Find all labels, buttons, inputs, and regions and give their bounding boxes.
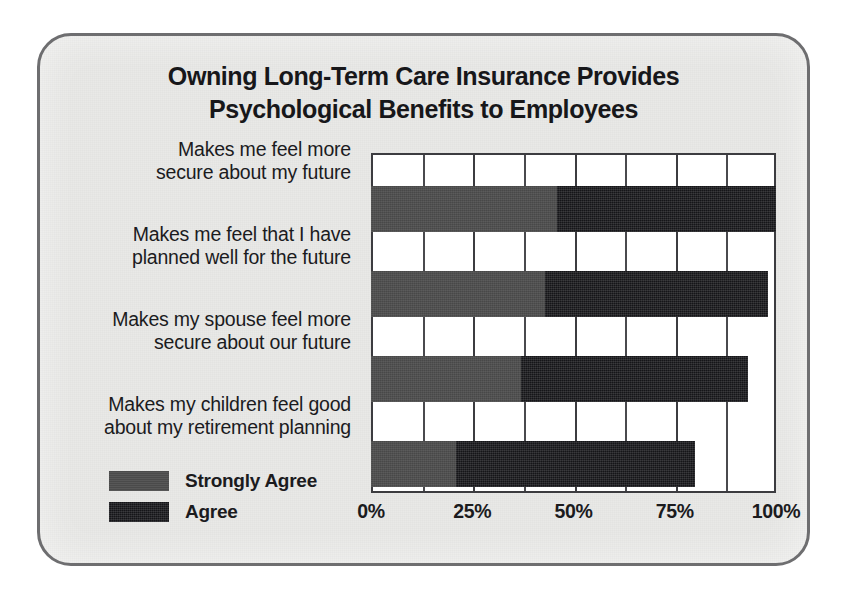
category-label-line-1: Makes me feel more — [51, 138, 351, 161]
bar-segment-agree — [456, 441, 695, 487]
bar-row — [371, 441, 695, 487]
chart-legend: Strongly AgreeAgree — [109, 468, 317, 530]
value-axis-tick-50%: 50% — [555, 500, 593, 523]
bar-segment-agree — [521, 356, 748, 402]
category-label-line-1: Makes my spouse feel more — [51, 308, 351, 331]
chart-title-line-1: Owning Long-Term Care Insurance Provides — [61, 60, 786, 93]
chart-title-line-2: Psychological Benefits to Employees — [61, 93, 786, 126]
legend-item-label: Strongly Agree — [185, 470, 317, 492]
category-label-line-2: secure about my future — [51, 161, 351, 184]
legend-swatch-strongly-agree — [109, 471, 169, 491]
chart-title: Owning Long-Term Care Insurance Provides… — [61, 60, 786, 125]
value-axis-tick-75%: 75% — [656, 500, 694, 523]
value-axis-tick-100%: 100% — [752, 500, 800, 523]
legend-swatch-agree — [109, 502, 169, 522]
bar-row — [371, 271, 768, 317]
chart-card: Owning Long-Term Care Insurance Provides… — [37, 33, 810, 566]
category-label: Makes me feel that I haveplanned well fo… — [51, 223, 351, 268]
legend-item-label: Agree — [185, 501, 238, 523]
category-label-line-1: Makes my children feel good — [51, 393, 351, 416]
legend-item[interactable]: Strongly Agree — [109, 468, 317, 493]
category-label-line-1: Makes me feel that I have — [51, 223, 351, 246]
bar-segment-strongly-agree — [371, 356, 521, 402]
category-label: Makes my children feel goodabout my reti… — [51, 393, 351, 438]
value-axis-tick-0%: 0% — [357, 500, 384, 523]
bar-segment-agree — [545, 271, 768, 317]
legend-item[interactable]: Agree — [109, 499, 317, 524]
bar-row — [371, 356, 748, 402]
category-label: Makes me feel moresecure about my future — [51, 138, 351, 183]
bar-segment-strongly-agree — [371, 186, 557, 232]
category-label: Makes my spouse feel moresecure about ou… — [51, 308, 351, 353]
category-label-line-2: about my retirement planning — [51, 416, 351, 439]
value-axis-tick-25%: 25% — [453, 500, 491, 523]
category-label-line-2: secure about our future — [51, 331, 351, 354]
bar-row — [371, 186, 776, 232]
bar-segment-strongly-agree — [371, 271, 545, 317]
bar-segment-strongly-agree — [371, 441, 456, 487]
bar-segment-agree — [557, 186, 776, 232]
category-label-line-2: planned well for the future — [51, 246, 351, 269]
